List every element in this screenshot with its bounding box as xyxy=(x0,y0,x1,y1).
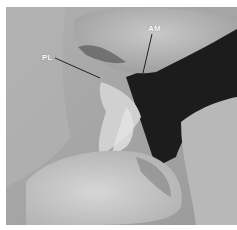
photo-rendering xyxy=(6,7,237,225)
label-am: AM xyxy=(148,24,161,33)
label-pl: PL xyxy=(42,53,53,62)
anatomical-photo: AM PL xyxy=(6,7,237,225)
